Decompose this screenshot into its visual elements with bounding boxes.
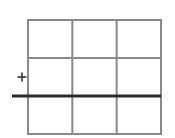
diagram-canvas bbox=[0, 0, 175, 138]
plus-icon bbox=[18, 73, 27, 82]
grid-border bbox=[28, 20, 161, 134]
grid-diagram bbox=[0, 0, 175, 138]
grid bbox=[28, 20, 161, 134]
